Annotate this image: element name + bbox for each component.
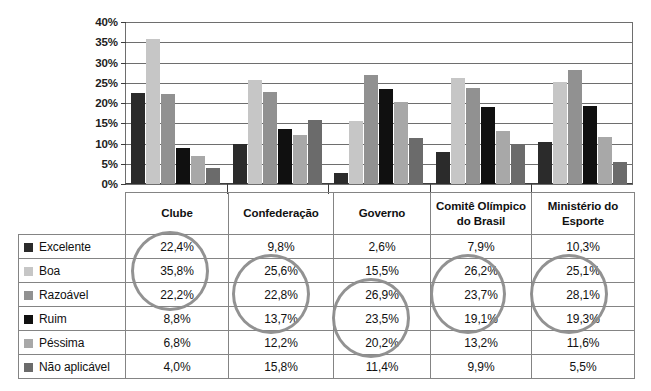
y-tick-label: 0% (78, 178, 118, 190)
bar-2-3 (263, 92, 277, 184)
legend-cell-1: Excelente (19, 235, 126, 259)
bar-5-4 (583, 106, 597, 184)
bar-groups (125, 22, 633, 184)
y-tick-label: 30% (78, 57, 118, 69)
table-row: Razoável22,2%22,8%26,9%23,7%28,1% (19, 283, 635, 307)
table-cell: 19,3% (532, 307, 635, 331)
y-tick-label: 10% (78, 138, 118, 150)
table-cell: 26,2% (431, 259, 532, 283)
column-header-2: Confederação (229, 193, 334, 235)
bar-2-2 (248, 80, 262, 184)
y-tick-label: 15% (78, 117, 118, 129)
table-cell: 22,4% (126, 235, 229, 259)
bar-4-6 (511, 144, 525, 184)
legend-swatch-icon (24, 267, 33, 276)
table-cell: 15,5% (334, 259, 431, 283)
table-cell: 25,1% (532, 259, 635, 283)
legend-swatch-icon (24, 291, 33, 300)
y-tick-label: 35% (78, 36, 118, 48)
table-row: Ruim8,8%13,7%23,5%19,1%19,3% (19, 307, 635, 331)
legend-label: Razoável (39, 288, 88, 302)
table-cell: 22,2% (126, 283, 229, 307)
bar-5-5 (598, 137, 612, 184)
table-cell: 2,6% (334, 235, 431, 259)
bar-1-1 (131, 93, 145, 184)
table-cell: 11,4% (334, 355, 431, 379)
bar-1-6 (206, 168, 220, 184)
table-cell: 11,6% (532, 331, 635, 355)
bar-4-3 (466, 88, 480, 184)
table-cell: 4,0% (126, 355, 229, 379)
table-row: Não aplicável4,0%15,8%11,4%9,9%5,5% (19, 355, 635, 379)
table-header-row: ClubeConfederaçãoGovernoComitê Olímpico … (19, 193, 635, 235)
legend-column-header (19, 193, 126, 235)
bar-3-2 (349, 121, 363, 184)
y-tick-label: 25% (78, 77, 118, 89)
bar-3-5 (394, 102, 408, 184)
table-cell: 13,2% (431, 331, 532, 355)
column-header-4: Comitê Olímpico do Brasil (431, 193, 532, 235)
bar-2-1 (233, 144, 247, 184)
gridline (125, 184, 633, 185)
legend-cell-4: Ruim (19, 307, 126, 331)
table-cell: 10,3% (532, 235, 635, 259)
bar-3-3 (364, 75, 378, 184)
table-row: Péssima6,8%12,2%20,2%13,2%11,6% (19, 331, 635, 355)
table-cell: 7,9% (431, 235, 532, 259)
legend-label: Ruim (39, 312, 67, 326)
table-cell: 8,8% (126, 307, 229, 331)
bar-4-4 (481, 107, 495, 184)
bar-1-2 (146, 39, 160, 184)
bar-group-2 (227, 22, 329, 184)
table-cell: 28,1% (532, 283, 635, 307)
legend-label: Boa (39, 264, 60, 278)
table-header: ClubeConfederaçãoGovernoComitê Olímpico … (19, 193, 635, 235)
column-header-5: Ministério do Esporte (532, 193, 635, 235)
table-row: Excelente22,4%9,8%2,6%7,9%10,3% (19, 235, 635, 259)
table-cell: 9,8% (229, 235, 334, 259)
column-header-1: Clube (126, 193, 229, 235)
table-cell: 23,7% (431, 283, 532, 307)
bar-1-4 (176, 148, 190, 184)
bar-3-1 (334, 173, 348, 184)
legend-swatch-icon (24, 339, 33, 348)
bar-3-4 (379, 89, 393, 184)
y-tick-mark (121, 184, 126, 185)
table-cell: 6,8% (126, 331, 229, 355)
bar-2-5 (293, 135, 307, 184)
bar-5-3 (568, 70, 582, 184)
data-table: ClubeConfederaçãoGovernoComitê Olímpico … (18, 192, 635, 379)
bar-4-2 (451, 78, 465, 184)
bar-1-3 (161, 94, 175, 184)
legend-cell-6: Não aplicável (19, 355, 126, 379)
bar-group-3 (328, 22, 430, 184)
table-cell: 15,8% (229, 355, 334, 379)
column-header-3: Governo (334, 193, 431, 235)
data-table-wrapper: ClubeConfederaçãoGovernoComitê Olímpico … (18, 192, 634, 378)
bar-5-1 (538, 142, 552, 184)
bar-5-6 (613, 162, 627, 184)
legend-label: Excelente (39, 240, 91, 254)
y-axis-tick-labels: 40%35%30%25%20%15%10%5%0% (78, 16, 118, 184)
y-tick-label: 40% (78, 16, 118, 28)
table-body: Excelente22,4%9,8%2,6%7,9%10,3%Boa35,8%2… (19, 235, 635, 379)
legend-label: Não aplicável (39, 360, 110, 374)
bar-2-6 (308, 120, 322, 184)
bar-4-1 (436, 152, 450, 184)
bar-3-6 (409, 138, 423, 184)
chart-and-table-figure: 40%35%30%25%20%15%10%5%0% ClubeConfede (0, 0, 651, 391)
table-cell: 23,5% (334, 307, 431, 331)
table-cell: 26,9% (334, 283, 431, 307)
table-cell: 19,1% (431, 307, 532, 331)
table-row: Boa35,8%25,6%15,5%26,2%25,1% (19, 259, 635, 283)
legend-swatch-icon (24, 363, 33, 372)
table-cell: 12,2% (229, 331, 334, 355)
legend-swatch-icon (24, 315, 33, 324)
grouped-bar-chart: 40%35%30%25%20%15%10%5%0% (0, 0, 651, 196)
table-cell: 22,8% (229, 283, 334, 307)
table-cell: 35,8% (126, 259, 229, 283)
table-cell: 9,9% (431, 355, 532, 379)
bar-1-5 (191, 156, 205, 184)
legend-cell-5: Péssima (19, 331, 126, 355)
y-tick-label: 5% (78, 158, 118, 170)
